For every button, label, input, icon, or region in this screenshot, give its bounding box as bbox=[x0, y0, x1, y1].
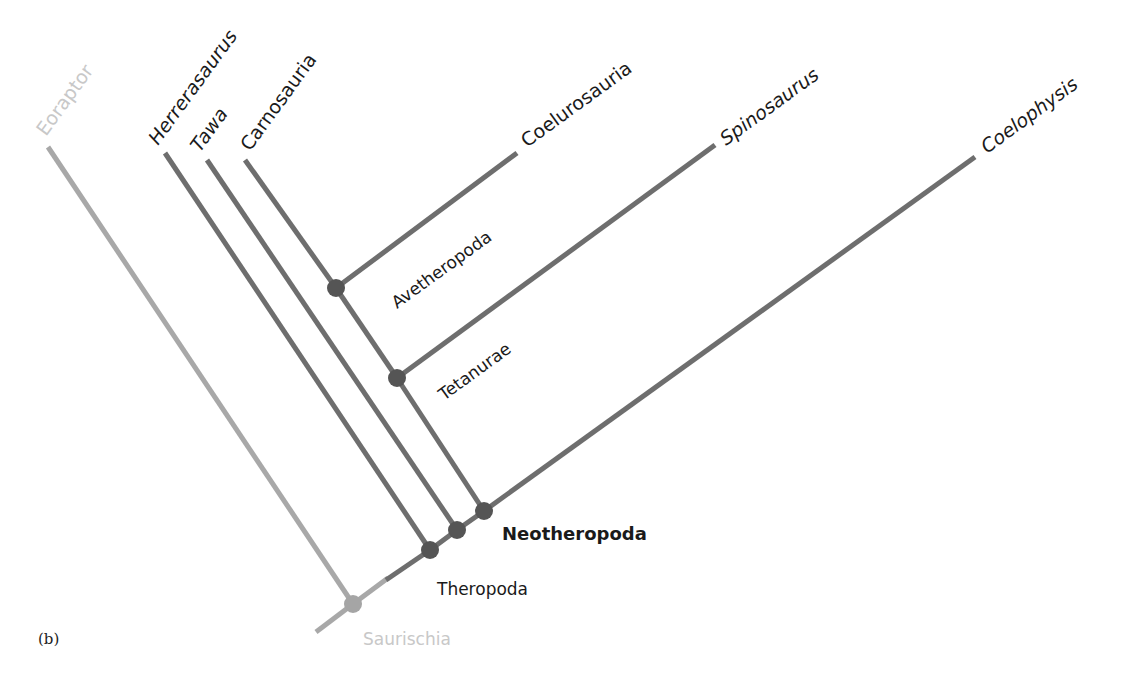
branch-coelophysis bbox=[484, 157, 975, 511]
label-herrerasaurus: Herrerasaurus bbox=[143, 25, 241, 148]
clade-labels: Avetheropoda Tetanurae Neotheropoda Ther… bbox=[363, 226, 647, 649]
node-neotheropoda bbox=[475, 502, 493, 520]
node-saurischia bbox=[344, 595, 362, 613]
panel-label: (b) bbox=[38, 630, 59, 648]
branch-carnosauria bbox=[245, 160, 336, 288]
node-theropoda bbox=[421, 541, 439, 559]
label-tawa: Tawa bbox=[185, 103, 231, 155]
light-branches bbox=[48, 147, 388, 632]
branch-neotheropoda-to-tetanurae bbox=[397, 378, 484, 511]
label-coelurosauria: Coelurosauria bbox=[516, 56, 635, 151]
tip-labels: Eoraptor Herrerasaurus Tawa Carnosauria … bbox=[31, 25, 1081, 157]
label-carnosauria: Carnosauria bbox=[235, 49, 320, 154]
branch-herrerasaurus bbox=[165, 153, 430, 550]
node-tawa-clade bbox=[448, 521, 466, 539]
label-tetanurae: Tetanurae bbox=[434, 338, 515, 404]
node-tetanurae bbox=[388, 369, 406, 387]
label-eoraptor: Eoraptor bbox=[31, 60, 97, 139]
label-coelophysis: Coelophysis bbox=[976, 72, 1081, 157]
branch-eoraptor bbox=[48, 147, 353, 604]
cladogram: Eoraptor Herrerasaurus Tawa Carnosauria … bbox=[0, 0, 1132, 688]
label-theropoda: Theropoda bbox=[436, 579, 528, 599]
label-neotheropoda: Neotheropoda bbox=[502, 523, 647, 544]
node-avetheropoda bbox=[327, 279, 345, 297]
dark-branches bbox=[165, 145, 975, 580]
label-spinosaurus: Spinosaurus bbox=[715, 63, 822, 149]
label-saurischia: Saurischia bbox=[363, 629, 451, 649]
branch-tawa bbox=[207, 160, 457, 530]
